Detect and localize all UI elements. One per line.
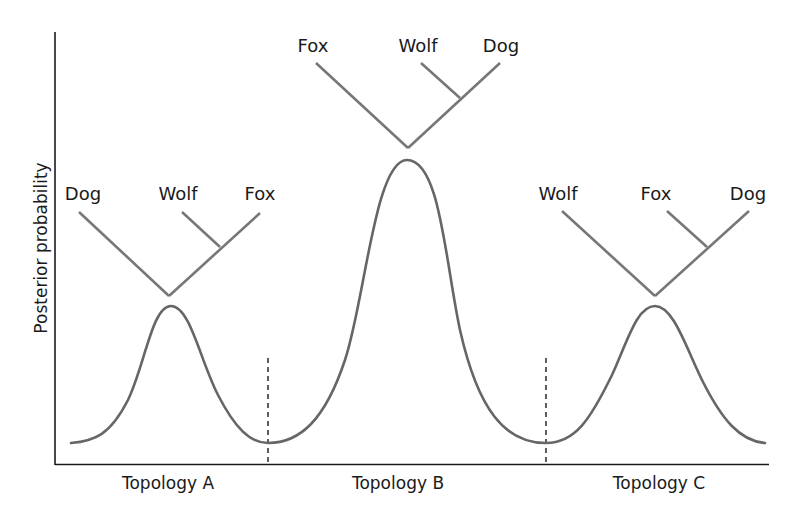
- x-label-topology-c: Topology C: [612, 473, 705, 493]
- tree-topology-c: Wolf Fox Dog: [538, 183, 766, 296]
- y-axis-label: Posterior probability: [31, 162, 51, 333]
- tree-a-tip-2: Wolf: [158, 183, 198, 204]
- x-label-topology-b: Topology B: [351, 473, 444, 493]
- tree-c-tip-2: Fox: [641, 183, 672, 204]
- posterior-landscape-diagram: Dog Wolf Fox Fox Wolf Dog Wolf Fox Dog P…: [0, 0, 802, 518]
- axes: [55, 32, 769, 465]
- tree-a-tip-1: Dog: [65, 183, 101, 204]
- tree-b-tip-2: Wolf: [398, 35, 438, 56]
- tree-topology-b: Fox Wolf Dog: [298, 35, 520, 148]
- tree-b-tip-3: Dog: [483, 35, 519, 56]
- tree-c-tip-1: Wolf: [538, 183, 578, 204]
- x-label-topology-a: Topology A: [121, 473, 214, 493]
- topology-dividers: [268, 358, 546, 464]
- tree-a-tip-3: Fox: [245, 183, 276, 204]
- tree-c-tip-3: Dog: [730, 183, 766, 204]
- tree-b-tip-1: Fox: [298, 35, 329, 56]
- tree-topology-a: Dog Wolf Fox: [65, 183, 276, 296]
